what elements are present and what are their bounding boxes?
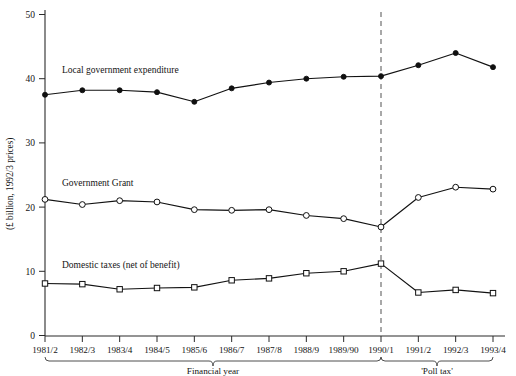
data-point [192, 99, 197, 104]
data-point [378, 261, 383, 266]
data-point [154, 199, 160, 205]
x-tick-label: 1987/8 [256, 345, 282, 355]
x-tick-label: 1992/3 [443, 345, 469, 355]
x-tick-label: 1982/3 [70, 345, 96, 355]
data-point [304, 271, 309, 276]
x-tick-label: 1993/4 [480, 345, 506, 355]
x-tick-label: 1990/1 [368, 345, 394, 355]
data-point [453, 184, 459, 190]
data-point [491, 65, 496, 70]
data-point [117, 198, 123, 204]
data-point [229, 86, 234, 91]
data-point [266, 207, 272, 213]
data-point [80, 88, 85, 93]
data-point [304, 76, 309, 81]
data-point [303, 213, 309, 219]
data-point [341, 216, 347, 222]
x-tick-label: 1983/4 [107, 345, 133, 355]
data-point [341, 74, 346, 79]
x-axis-title: Financial year [187, 366, 239, 376]
poll-tax-label: 'Poll tax' [421, 366, 453, 376]
data-point [154, 285, 159, 290]
data-point [267, 80, 272, 85]
x-tick-label: 1981/2 [32, 345, 58, 355]
chart-container: 01020304050 1981/21982/31983/41984/51985… [0, 0, 516, 376]
y-tick-label: 0 [30, 331, 35, 341]
x-tick-label: 1986/7 [219, 345, 245, 355]
axis-brackets [45, 357, 493, 366]
x-tick-label: 1984/5 [144, 345, 170, 355]
data-point [80, 281, 85, 286]
y-axis-title: (£ billion, 1992/3 prices) [5, 138, 16, 230]
data-point [43, 92, 48, 97]
x-tick-label: 1989/90 [329, 345, 360, 355]
data-point [79, 202, 85, 208]
financial-year-bracket [45, 357, 381, 366]
data-point [416, 290, 421, 295]
data-point [42, 196, 48, 202]
data-point [490, 186, 496, 192]
data-point [191, 207, 197, 213]
data-point [117, 88, 122, 93]
data-point [266, 276, 271, 281]
y-tick-label: 10 [26, 267, 36, 277]
data-point [416, 63, 421, 68]
data-point [229, 207, 235, 213]
series-line [45, 53, 493, 102]
data-point [192, 285, 197, 290]
x-tick-label: 1985/6 [182, 345, 208, 355]
y-tick-label: 40 [26, 74, 36, 84]
data-point [490, 290, 495, 295]
y-tick-label: 30 [26, 138, 36, 148]
y-tick-label: 50 [26, 10, 36, 20]
line-chart: 01020304050 1981/21982/31983/41984/51985… [0, 0, 516, 376]
y-axis-ticks: 01020304050 [26, 10, 46, 341]
data-point [379, 74, 384, 79]
data-point [415, 195, 421, 201]
series-label-expenditure: Local government expenditure [62, 65, 179, 75]
x-tick-label: 1988/9 [294, 345, 320, 355]
poll-tax-bracket [381, 357, 493, 366]
data-point [155, 90, 160, 95]
series-label-grant: Government Grant [62, 178, 134, 188]
data-point [42, 281, 47, 286]
series-label-taxes: Domestic taxes (net of benefit) [62, 260, 180, 271]
data-point [229, 278, 234, 283]
x-tick-label: 1991/2 [406, 345, 432, 355]
y-tick-label: 20 [26, 203, 36, 213]
data-point [453, 287, 458, 292]
data-point [341, 269, 346, 274]
data-point [453, 51, 458, 56]
data-point [378, 224, 384, 230]
x-axis-ticks: 1981/21982/31983/41984/51985/61986/71987… [32, 336, 506, 355]
data-point [117, 287, 122, 292]
